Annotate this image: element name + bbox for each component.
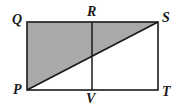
- vertex-label-r: R: [87, 5, 96, 19]
- vertex-label-v: V: [86, 92, 95, 106]
- vertex-label-p: P: [13, 83, 22, 97]
- vertex-label-t: T: [162, 85, 171, 99]
- geometry-figure: Q R S P V T: [0, 0, 178, 111]
- vertex-label-q: Q: [12, 13, 22, 27]
- vertex-label-s: S: [162, 11, 170, 25]
